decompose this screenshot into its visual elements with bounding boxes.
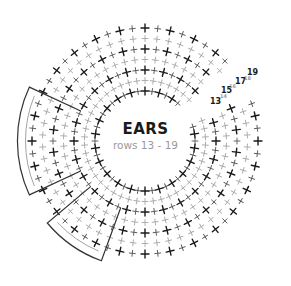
stitch-icon xyxy=(78,85,86,93)
stitch-icon xyxy=(64,83,75,94)
stitch-icon xyxy=(81,41,89,49)
stitch-icon xyxy=(122,205,132,215)
row-labels: 13141516171819 xyxy=(210,68,259,106)
stitch-icon xyxy=(142,78,148,84)
stitch-icon xyxy=(153,229,160,236)
stitch-icon xyxy=(109,189,117,197)
stitch-icon xyxy=(141,87,149,95)
row-label-19: 19 xyxy=(247,68,259,77)
stitch-icon xyxy=(197,196,205,204)
stitch-icon xyxy=(189,203,197,211)
stitch-icon xyxy=(154,239,161,246)
stitch-icon xyxy=(158,196,165,203)
stitch-icon xyxy=(185,95,193,103)
stitch-icon xyxy=(130,36,137,43)
stitch-icon xyxy=(172,189,180,197)
stitch-icon xyxy=(91,102,99,110)
stitch-icon xyxy=(215,207,223,215)
stitch-icon xyxy=(179,184,187,192)
stitch-icon xyxy=(198,157,206,165)
stitch-icon xyxy=(54,168,64,178)
stitch-icon xyxy=(182,217,193,228)
stitch-icon xyxy=(201,233,209,241)
stitch-icon xyxy=(221,217,229,225)
stitch-icon xyxy=(215,188,226,199)
stitch-icon xyxy=(131,57,138,64)
stitch-icon xyxy=(64,112,72,120)
stitch-icon xyxy=(141,208,149,216)
stitch-icon xyxy=(95,229,103,237)
stitch-icon xyxy=(141,229,149,237)
stitch-icon xyxy=(149,187,156,194)
stitch-icon xyxy=(97,217,108,228)
stitch-icon xyxy=(93,203,101,211)
center-title-block: EARS rows 13 - 19 xyxy=(0,120,291,152)
stitch-icon xyxy=(125,79,132,86)
stitch-icon xyxy=(78,66,89,77)
stitch-icon xyxy=(69,224,80,235)
stitch-icon xyxy=(104,30,112,38)
stitch-icon xyxy=(131,219,138,226)
stitch-icon xyxy=(235,178,243,186)
stitch-icon xyxy=(78,100,89,111)
stitch-icon xyxy=(141,45,149,53)
stitch-icon xyxy=(228,206,239,217)
stitch-icon xyxy=(197,222,205,230)
stitch-icon xyxy=(34,174,42,182)
stitch-icon xyxy=(118,47,128,57)
bottom-ear-flap-inner-line xyxy=(57,222,98,251)
stitch-icon xyxy=(165,82,173,90)
stitch-icon xyxy=(61,153,68,160)
stitch-icon xyxy=(85,196,93,204)
stitch-icon xyxy=(69,47,80,58)
stitch-icon xyxy=(121,216,128,223)
stitch-icon xyxy=(104,197,115,208)
stitch-icon xyxy=(193,61,201,69)
stitch-icon xyxy=(135,187,142,194)
stitch-icon xyxy=(141,24,149,32)
stitch-icon xyxy=(75,58,83,66)
stitch-icon xyxy=(120,92,128,100)
stitch-icon xyxy=(98,80,106,88)
stitch-icon xyxy=(226,168,236,178)
stitch-icon xyxy=(111,61,119,69)
stitch-icon xyxy=(250,161,260,171)
stitch-icon xyxy=(118,38,125,45)
stitch-icon xyxy=(133,78,140,85)
stitch-icon xyxy=(66,207,74,215)
stitch-icon xyxy=(209,155,219,165)
diagram-title: EARS xyxy=(0,120,291,138)
stitch-icon xyxy=(166,178,177,189)
stitch-icon xyxy=(239,108,246,115)
stitch-icon xyxy=(162,47,172,57)
stitch-icon xyxy=(72,155,82,165)
stitch-icon xyxy=(159,205,169,215)
stitch-icon xyxy=(129,25,136,32)
stitch-icon xyxy=(200,66,211,77)
stitch-icon xyxy=(200,204,211,215)
stitch-icon xyxy=(162,225,172,235)
stitch-icon xyxy=(117,82,125,90)
stitch-icon xyxy=(175,74,186,85)
stitch-icon xyxy=(66,66,74,74)
stitch-icon xyxy=(84,180,92,188)
stitch-icon xyxy=(149,88,156,95)
stitch-icon xyxy=(190,172,198,180)
stitch-icon xyxy=(162,216,169,223)
stitch-icon xyxy=(185,157,196,168)
stitch-icon xyxy=(185,178,193,186)
stitch-icon xyxy=(165,193,173,201)
stitch-icon xyxy=(89,85,100,96)
stitch-icon xyxy=(118,225,128,235)
stitch-icon xyxy=(99,164,107,172)
stitch-icon xyxy=(132,208,139,215)
stitch-icon xyxy=(174,51,182,59)
stitch-icon xyxy=(109,85,117,93)
stitch-icon xyxy=(184,80,192,88)
stitch-icon xyxy=(91,172,99,180)
stitch-icon xyxy=(248,100,256,108)
stitch-icon xyxy=(84,157,92,165)
stitch-icon xyxy=(168,203,176,211)
stitch-icon xyxy=(78,171,89,182)
stitch-icon xyxy=(162,58,169,65)
